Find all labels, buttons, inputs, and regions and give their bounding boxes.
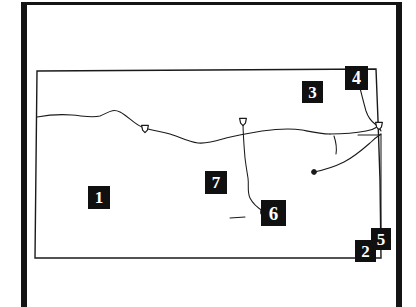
- callout-2-label: 2: [361, 243, 370, 260]
- callout-7[interactable]: 7: [205, 171, 227, 194]
- callout-5-label: 5: [377, 231, 386, 248]
- map-canvas: [0, 0, 416, 307]
- callout-4-label: 4: [352, 69, 361, 87]
- callout-3[interactable]: 3: [302, 81, 323, 103]
- city-marker-east: [312, 170, 317, 175]
- callout-3-label: 3: [308, 84, 317, 101]
- callout-4[interactable]: 4: [345, 66, 368, 90]
- southeast-tributary: [314, 134, 381, 172]
- callout-6[interactable]: 6: [261, 200, 286, 226]
- state-outline-path: [35, 69, 381, 258]
- city-marker-west: [142, 125, 149, 132]
- callout-7-label: 7: [212, 174, 221, 191]
- central-north-south-river: [243, 122, 263, 211]
- callout-1[interactable]: 1: [88, 186, 110, 209]
- figure-root: 1 2 3 4 5 6 7: [0, 0, 416, 307]
- state-outline: [35, 69, 381, 258]
- callout-5[interactable]: 5: [371, 228, 391, 250]
- city-marker-central: [240, 118, 247, 125]
- north-branch-to-confluence: [330, 126, 379, 134]
- city-marker-border: [376, 122, 383, 129]
- west-short-dash: [230, 217, 245, 218]
- main-east-west-river: [37, 111, 330, 144]
- river-network: [37, 88, 381, 248]
- short-east-stub: [334, 136, 336, 154]
- callout-1-label: 1: [95, 189, 104, 206]
- callout-6-label: 6: [269, 204, 279, 223]
